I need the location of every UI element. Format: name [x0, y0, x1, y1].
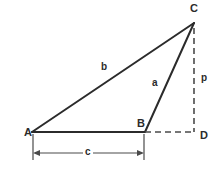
side-label-b: b — [101, 62, 107, 72]
side-label-p: p — [201, 73, 207, 83]
geometry-figure: A B C D a b p c — [0, 0, 220, 169]
vertex-label-b: B — [137, 118, 145, 129]
side-label-a: a — [152, 78, 158, 88]
vertex-label-a: A — [24, 127, 32, 138]
vertex-label-d: D — [200, 130, 208, 141]
dimension-arrow-left-icon — [33, 150, 40, 156]
dimension-label-c: c — [83, 147, 93, 157]
dimension-arrow-right-icon — [137, 150, 144, 156]
triangle-diagram-svg — [0, 0, 220, 169]
vertex-label-c: C — [190, 3, 198, 14]
